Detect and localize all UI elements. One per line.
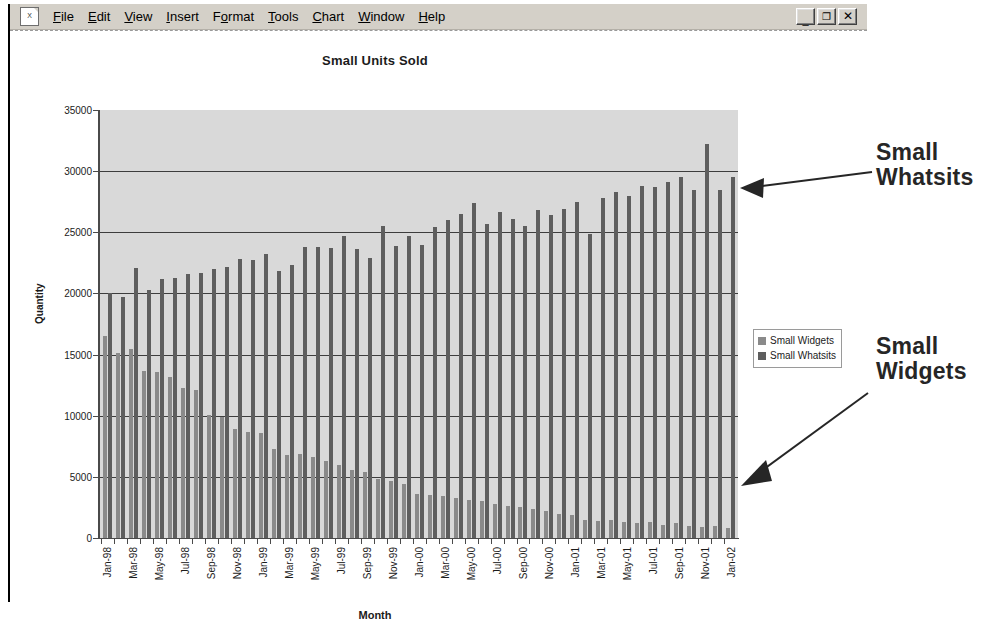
bar-small-widgets[interactable] xyxy=(415,494,419,538)
minimize-window-button[interactable]: _ xyxy=(796,8,815,25)
bar-group[interactable] xyxy=(153,110,166,538)
bar-small-widgets[interactable] xyxy=(402,484,406,538)
bar-small-whatsits[interactable] xyxy=(485,224,489,538)
y-axis-title[interactable]: Quantity xyxy=(34,283,45,324)
bar-small-widgets[interactable] xyxy=(324,461,328,538)
bar-small-widgets[interactable] xyxy=(531,509,535,538)
bar-small-whatsits[interactable] xyxy=(472,203,476,538)
bar-group[interactable] xyxy=(413,110,426,538)
menu-item-help[interactable]: Help xyxy=(411,7,452,27)
bar-group[interactable] xyxy=(659,110,672,538)
bar-group[interactable] xyxy=(620,110,633,538)
bar-group[interactable] xyxy=(192,110,205,538)
bar-small-whatsits[interactable] xyxy=(731,177,735,538)
menu-item-window[interactable]: Window xyxy=(351,7,411,27)
bar-small-widgets[interactable] xyxy=(389,481,393,539)
bar-small-widgets[interactable] xyxy=(298,454,302,538)
bar-small-widgets[interactable] xyxy=(570,515,574,538)
bar-small-widgets[interactable] xyxy=(246,432,250,538)
bar-group[interactable] xyxy=(594,110,607,538)
bar-small-whatsits[interactable] xyxy=(277,271,281,538)
bar-small-whatsits[interactable] xyxy=(251,260,255,538)
x-axis-labels[interactable]: Jan-98Mar-98May-98Jul-98Sep-98Nov-98Jan-… xyxy=(100,545,738,607)
bar-small-widgets[interactable] xyxy=(142,371,146,539)
bar-small-widgets[interactable] xyxy=(622,522,626,538)
bar-small-whatsits[interactable] xyxy=(666,182,670,538)
menu-item-view[interactable]: View xyxy=(117,7,159,27)
bar-small-whatsits[interactable] xyxy=(381,226,385,538)
bar-small-widgets[interactable] xyxy=(518,507,522,538)
bar-small-whatsits[interactable] xyxy=(238,259,242,538)
bar-group[interactable] xyxy=(711,110,724,538)
bar-group[interactable] xyxy=(529,110,542,538)
bar-small-whatsits[interactable] xyxy=(225,267,229,539)
bar-small-widgets[interactable] xyxy=(687,526,691,538)
bar-group[interactable] xyxy=(426,110,439,538)
bar-small-widgets[interactable] xyxy=(596,521,600,538)
bar-group[interactable] xyxy=(465,110,478,538)
bar-small-widgets[interactable] xyxy=(272,449,276,538)
bar-small-widgets[interactable] xyxy=(467,500,471,538)
bar-small-whatsits[interactable] xyxy=(199,273,203,538)
bar-group[interactable] xyxy=(517,110,530,538)
bar-group[interactable] xyxy=(400,110,413,538)
chart-legend[interactable]: Small WidgetsSmall Whatsits xyxy=(753,329,842,368)
legend-entry[interactable]: Small Whatsits xyxy=(758,348,836,363)
bar-group[interactable] xyxy=(568,110,581,538)
bar-group[interactable] xyxy=(335,110,348,538)
bar-small-whatsits[interactable] xyxy=(134,268,138,538)
bar-small-widgets[interactable] xyxy=(194,390,198,538)
bar-group[interactable] xyxy=(140,110,153,538)
bar-small-whatsits[interactable] xyxy=(290,265,294,538)
bar-small-widgets[interactable] xyxy=(233,429,237,538)
bar-small-widgets[interactable] xyxy=(311,457,315,538)
bar-small-widgets[interactable] xyxy=(441,496,445,538)
bar-small-whatsits[interactable] xyxy=(446,220,450,538)
bar-group[interactable] xyxy=(504,110,517,538)
bar-group[interactable] xyxy=(101,110,114,538)
bar-small-widgets[interactable] xyxy=(713,526,717,538)
bar-small-whatsits[interactable] xyxy=(186,274,190,538)
bar-group[interactable] xyxy=(724,110,737,538)
bar-small-whatsits[interactable] xyxy=(679,177,683,538)
bar-small-whatsits[interactable] xyxy=(692,190,696,539)
bar-group[interactable] xyxy=(309,110,322,538)
bar-group[interactable] xyxy=(361,110,374,538)
bar-small-whatsits[interactable] xyxy=(588,234,592,539)
chart-title[interactable]: Small Units Sold xyxy=(10,53,740,68)
bar-small-whatsits[interactable] xyxy=(407,236,411,538)
bar-group[interactable] xyxy=(270,110,283,538)
bar-small-whatsits[interactable] xyxy=(108,293,112,538)
bar-small-whatsits[interactable] xyxy=(316,247,320,538)
bar-small-widgets[interactable] xyxy=(428,495,432,538)
bar-group[interactable] xyxy=(646,110,659,538)
x-axis-title[interactable]: Month xyxy=(10,609,740,621)
bar-small-whatsits[interactable] xyxy=(627,196,631,538)
bar-small-widgets[interactable] xyxy=(661,525,665,539)
restore-window-button[interactable]: ❐ xyxy=(817,8,836,25)
menu-item-insert[interactable]: Insert xyxy=(159,7,206,27)
bar-small-whatsits[interactable] xyxy=(303,247,307,538)
bar-small-whatsits[interactable] xyxy=(653,187,657,538)
bar-small-widgets[interactable] xyxy=(350,470,354,539)
bar-group[interactable] xyxy=(257,110,270,538)
bar-small-widgets[interactable] xyxy=(674,523,678,538)
bar-small-whatsits[interactable] xyxy=(368,258,372,538)
bar-small-whatsits[interactable] xyxy=(705,144,709,538)
bar-group[interactable] xyxy=(581,110,594,538)
bar-group[interactable] xyxy=(685,110,698,538)
bar-small-whatsits[interactable] xyxy=(536,210,540,538)
bar-group[interactable] xyxy=(478,110,491,538)
bar-group[interactable] xyxy=(322,110,335,538)
bar-small-whatsits[interactable] xyxy=(342,236,346,538)
bar-small-widgets[interactable] xyxy=(376,479,380,538)
bar-small-widgets[interactable] xyxy=(609,520,613,538)
bar-small-whatsits[interactable] xyxy=(433,227,437,538)
bar-small-whatsits[interactable] xyxy=(575,202,579,538)
bar-small-whatsits[interactable] xyxy=(640,186,644,538)
bar-small-whatsits[interactable] xyxy=(329,248,333,538)
bar-group[interactable] xyxy=(166,110,179,538)
bar-small-widgets[interactable] xyxy=(480,501,484,538)
bar-group[interactable] xyxy=(542,110,555,538)
bar-small-whatsits[interactable] xyxy=(420,245,424,539)
